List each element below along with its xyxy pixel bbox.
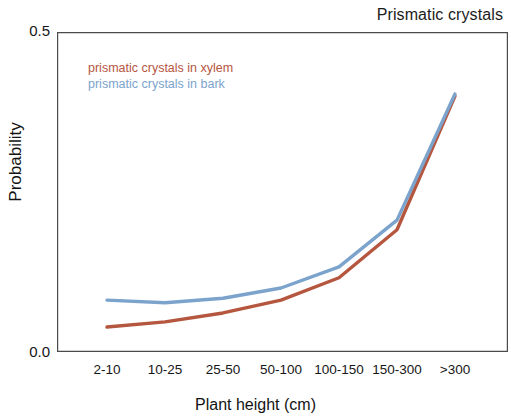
x-axis-tick-label: 2-10 (93, 362, 120, 377)
x-axis-tick-label: >300 (440, 362, 470, 377)
x-axis-title: Plant height (cm) (0, 396, 511, 414)
x-axis-tick-label: 25-50 (206, 362, 241, 377)
legend-entry: prismatic crystals in bark (88, 76, 233, 92)
chart-figure: Prismatic crystals 0.5 0.0 Probability 2… (0, 0, 511, 418)
chart-legend: prismatic crystals in xylemprismatic cry… (88, 60, 233, 92)
y-axis-title: Probability (6, 102, 26, 222)
data-series-group (107, 94, 455, 327)
y-axis-tick-label-max: 0.5 (29, 22, 50, 39)
legend-entry: prismatic crystals in xylem (88, 60, 233, 76)
x-axis-tick-label: 100-150 (314, 362, 364, 377)
chart-title: Prismatic crystals (377, 6, 503, 24)
x-axis-tick-label: 10-25 (148, 362, 183, 377)
series-line (107, 94, 455, 303)
x-axis-tick-label: 50-100 (260, 362, 302, 377)
x-axis-tick-label: 150-300 (372, 362, 422, 377)
x-axis-tick-labels: 2-1010-2525-5050-100100-150150-300>300 (57, 362, 508, 384)
y-axis-tick-label-min: 0.0 (29, 343, 50, 360)
